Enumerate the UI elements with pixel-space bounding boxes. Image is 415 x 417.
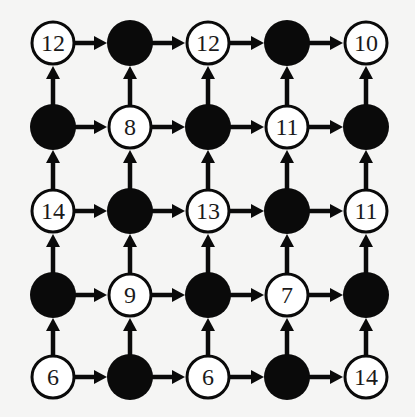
edge-arrow-up-r2-c3 [280, 150, 294, 189]
labeled-node: 14 [32, 190, 74, 232]
labeled-node: 14 [345, 356, 387, 398]
edge-arrow-right-r4-c0 [75, 370, 107, 384]
edge-arrow-right-r0-c2 [230, 36, 264, 50]
edge-arrow-up-r2-c1 [123, 150, 137, 189]
edge-arrow-up-r4-c3 [280, 318, 294, 355]
edge-arrow-right-r3-c2 [230, 288, 264, 302]
edge-arrow-right-r4-c1 [152, 370, 185, 384]
edge-arrow-up-r2-c0 [46, 150, 60, 189]
node-value: 11 [354, 198, 377, 224]
labeled-node: 8 [109, 106, 151, 148]
edge-arrow-right-r2-c0 [75, 204, 107, 218]
filled-node [185, 104, 231, 150]
edge-arrow-right-r0-c0 [75, 36, 107, 50]
edge-arrow-right-r2-c3 [309, 204, 343, 218]
edge-arrow-right-r3-c1 [152, 288, 185, 302]
edge-arrow-up-r1-c3 [280, 66, 294, 105]
labeled-node: 6 [32, 356, 74, 398]
edge-arrow-up-r3-c0 [46, 234, 60, 273]
edge-arrow-right-r1-c2 [230, 120, 264, 134]
edge-arrow-up-r4-c1 [123, 318, 137, 355]
grid-graph-diagram: 121210811141311976614 [0, 0, 415, 417]
edge-arrow-up-r4-c4 [359, 318, 373, 355]
filled-node [185, 272, 231, 318]
filled-node [30, 272, 76, 318]
edge-arrow-right-r4-c2 [230, 370, 264, 384]
node-value: 11 [275, 114, 298, 140]
node-value: 14 [354, 364, 378, 390]
edge-arrow-right-r0-c3 [309, 36, 343, 50]
edge-arrow-up-r3-c2 [201, 234, 215, 273]
filled-node [107, 354, 153, 400]
edge-arrow-up-r2-c4 [359, 150, 373, 189]
node-value: 14 [41, 198, 65, 224]
node-value: 13 [196, 198, 220, 224]
edge-arrow-up-r1-c0 [46, 66, 60, 105]
node-value: 12 [196, 30, 220, 56]
edge-arrow-right-r0-c1 [152, 36, 185, 50]
edge-arrow-right-r4-c3 [309, 370, 343, 384]
labeled-node: 12 [187, 22, 229, 64]
edge-arrow-up-r4-c2 [201, 318, 215, 355]
edge-arrow-right-r2-c2 [230, 204, 264, 218]
filled-node [264, 354, 310, 400]
edge-arrow-right-r2-c1 [152, 204, 185, 218]
edge-arrow-up-r3-c1 [123, 234, 137, 273]
node-value: 10 [354, 30, 378, 56]
edge-arrow-right-r3-c3 [309, 288, 343, 302]
filled-node [264, 188, 310, 234]
edge-arrow-up-r2-c2 [201, 150, 215, 189]
grid-graph-canvas: 121210811141311976614 [0, 0, 415, 417]
filled-node [264, 20, 310, 66]
node-value: 8 [124, 114, 136, 140]
node-value: 6 [47, 364, 59, 390]
edge-arrow-up-r1-c1 [123, 66, 137, 105]
labeled-node: 7 [266, 274, 308, 316]
labeled-node: 11 [345, 190, 387, 232]
filled-node [30, 104, 76, 150]
edge-arrow-up-r1-c2 [201, 66, 215, 105]
labeled-node: 6 [187, 356, 229, 398]
node-value: 12 [41, 30, 65, 56]
edge-arrow-up-r1-c4 [359, 66, 373, 105]
node-value: 7 [281, 282, 293, 308]
labeled-node: 9 [109, 274, 151, 316]
filled-node [343, 272, 389, 318]
edge-arrow-right-r3-c0 [75, 288, 107, 302]
labeled-node: 10 [345, 22, 387, 64]
edge-arrow-right-r1-c1 [152, 120, 185, 134]
edge-arrow-up-r4-c0 [46, 318, 60, 355]
node-value: 9 [124, 282, 136, 308]
labeled-node: 13 [187, 190, 229, 232]
edge-arrow-right-r1-c3 [309, 120, 343, 134]
labeled-node: 12 [32, 22, 74, 64]
filled-node [107, 20, 153, 66]
node-value: 6 [202, 364, 214, 390]
edge-arrow-up-r3-c3 [280, 234, 294, 273]
labeled-node: 11 [266, 106, 308, 148]
filled-node [107, 188, 153, 234]
edge-arrow-right-r1-c0 [75, 120, 107, 134]
edge-arrow-up-r3-c4 [359, 234, 373, 273]
filled-node [343, 104, 389, 150]
